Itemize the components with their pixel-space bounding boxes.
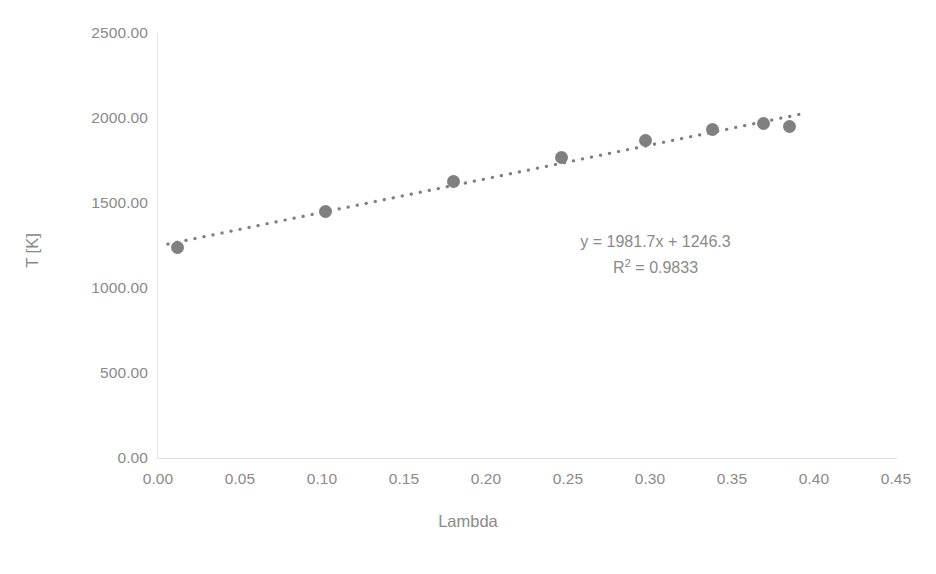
y-axis-tick-label: 500.00: [100, 364, 148, 382]
y-axis-tick-label: 1500.00: [91, 194, 148, 212]
x-axis-tick-label: 0.15: [389, 470, 420, 488]
y-axis-tick-labels: 0.00500.001000.001500.002000.002500.00: [0, 0, 148, 574]
x-axis-tick-label: 0.25: [553, 470, 584, 488]
x-axis-tick-label: 0.40: [799, 470, 830, 488]
x-axis-tick-label: 0.30: [635, 470, 666, 488]
x-axis-tick-label: 0.20: [471, 470, 502, 488]
data-point-marker[interactable]: [447, 175, 460, 188]
data-point-marker[interactable]: [706, 123, 719, 136]
r-squared-value: R2 = 0.9833: [548, 255, 763, 281]
y-axis-tick-label: 1000.00: [91, 279, 148, 297]
chart-container: T [K] 0.00500.001000.001500.002000.00250…: [0, 0, 936, 574]
x-axis-tick-label: 0.10: [307, 470, 338, 488]
plot-area: [158, 33, 896, 458]
regression-equation: y = 1981.7x + 1246.3: [548, 230, 763, 255]
data-point-marker[interactable]: [555, 151, 568, 164]
data-point-marker[interactable]: [171, 241, 184, 254]
trendline-equation-annotation: y = 1981.7x + 1246.3 R2 = 0.9833: [548, 230, 763, 281]
x-axis-tick-label: 0.45: [881, 470, 912, 488]
data-point-marker[interactable]: [757, 117, 770, 130]
r-squared-number: = 0.9833: [631, 259, 698, 276]
r-squared-label: R: [613, 259, 625, 276]
x-axis-tick-label: 0.00: [143, 470, 174, 488]
y-axis-tick-label: 2000.00: [91, 109, 148, 127]
x-axis-tick-label: 0.35: [717, 470, 748, 488]
x-axis-tick-label: 0.05: [225, 470, 256, 488]
data-point-marker[interactable]: [639, 134, 652, 147]
y-axis-tick-label: 0.00: [117, 449, 148, 467]
data-point-marker[interactable]: [319, 205, 332, 218]
y-axis-tick-label: 2500.00: [91, 24, 148, 42]
x-axis-title: Lambda: [0, 512, 936, 531]
data-point-marker[interactable]: [783, 120, 796, 133]
x-axis-line: [157, 458, 897, 459]
